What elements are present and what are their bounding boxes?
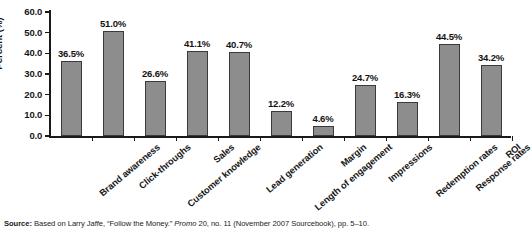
y-tick-label: 40.0 (2, 48, 42, 58)
bar-value-label: 12.2% (259, 98, 303, 109)
bar-value-label: 51.0% (91, 18, 135, 29)
plot-area: 36.5%51.0%26.6%41.1%40.7%12.2%4.6%24.7%1… (50, 12, 514, 136)
bar-value-label: 44.5% (427, 31, 471, 42)
y-tick (45, 11, 50, 13)
y-tick (45, 135, 50, 137)
x-tick (134, 136, 135, 141)
x-category-label: Redemption rates (434, 142, 499, 199)
y-tick-label: 20.0 (2, 90, 42, 100)
bar-value-label: 26.6% (133, 68, 177, 79)
bar (229, 52, 250, 136)
x-category-label: Lead generation (264, 142, 324, 195)
x-tick (92, 136, 93, 141)
bar (313, 126, 334, 136)
bar (103, 31, 124, 136)
bar (397, 102, 418, 136)
source-publication: Promo (174, 219, 196, 228)
bar (481, 65, 502, 136)
x-tick (386, 136, 387, 141)
y-tick (45, 32, 50, 34)
bar (145, 81, 166, 136)
y-tick-label: 50.0 (2, 28, 42, 38)
x-tick (344, 136, 345, 141)
source-text-2: 20, no. 11 (November 2007 Sourcebook), p… (196, 219, 369, 228)
x-axis-line (49, 136, 511, 138)
bar-value-label: 4.6% (301, 113, 345, 124)
bar (439, 44, 460, 136)
x-tick (218, 136, 219, 141)
source-text-1: Based on Larry Jaffe, “Follow the Money.… (32, 219, 174, 228)
x-tick (302, 136, 303, 141)
bar (355, 85, 376, 136)
x-tick (470, 136, 471, 141)
bar-value-label: 36.5% (49, 48, 93, 59)
y-tick (45, 94, 50, 96)
source-note: Source: Based on Larry Jaffe, “Follow th… (4, 219, 369, 228)
x-tick (260, 136, 261, 141)
bar-value-label: 41.1% (175, 38, 219, 49)
source-label: Source: (4, 219, 32, 228)
x-tick (428, 136, 429, 141)
bar-value-label: 34.2% (469, 52, 513, 63)
y-axis-title: Percent (%) (0, 8, 4, 80)
x-tick (512, 136, 513, 141)
y-tick-label: 10.0 (2, 110, 42, 120)
bar-value-label: 40.7% (217, 39, 261, 50)
bar-value-label: 24.7% (343, 72, 387, 83)
bar (187, 51, 208, 136)
bar-value-label: 16.3% (385, 89, 429, 100)
x-tick (176, 136, 177, 141)
y-tick-label: 60.0 (2, 7, 42, 17)
y-tick-label: 0.0 (2, 131, 42, 141)
y-tick (45, 73, 50, 75)
y-tick-label: 30.0 (2, 69, 42, 79)
bar (61, 61, 82, 136)
bar (271, 111, 292, 136)
y-tick (45, 115, 50, 117)
